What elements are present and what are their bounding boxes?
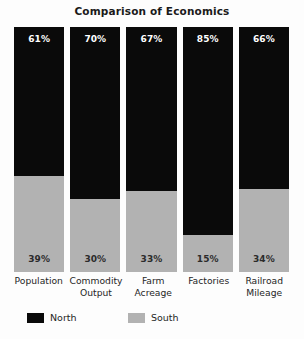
bar-value-label-south: 34% [253, 255, 275, 264]
bar-segment-south: 39% [14, 176, 64, 272]
bar-column-commodity-output: 70% 30% [70, 27, 120, 272]
legend-entry-south: South [128, 313, 179, 323]
economics-comparison-chart: Comparison of Economics 61% 39% 70% 30% … [0, 0, 304, 339]
bar-value-label-south: 39% [28, 255, 50, 264]
bar-segment-north: 61% [14, 27, 64, 176]
bar-column-population: 61% 39% [14, 27, 64, 272]
bar-segment-south: 34% [239, 189, 289, 272]
chart-legend: North South [0, 313, 304, 333]
bar-segment-north: 66% [239, 27, 289, 189]
bar-value-label-north: 66% [253, 35, 275, 44]
bar-column-factories: 85% 15% [183, 27, 233, 272]
x-tick-label: Railroad Mileage [239, 275, 289, 298]
bar-segment-north: 70% [70, 27, 120, 199]
bar-segment-north: 67% [126, 27, 176, 191]
chart-title: Comparison of Economics [0, 5, 304, 17]
bar-value-label-north: 70% [84, 35, 106, 44]
bar-value-label-south: 15% [197, 255, 219, 264]
bar-column-railroad-mileage: 66% 34% [239, 27, 289, 272]
bar-segment-south: 33% [126, 191, 176, 272]
x-tick-label: Commodity Output [70, 275, 123, 298]
bar-value-label-north: 61% [28, 35, 50, 44]
x-axis-labels: Population Commodity Output Farm Acreage… [14, 275, 289, 298]
bar-value-label-north: 67% [141, 35, 163, 44]
legend-label-south: South [151, 313, 179, 323]
bar-value-label-north: 85% [197, 35, 219, 44]
legend-swatch-icon-north [27, 313, 44, 323]
bar-value-label-south: 33% [141, 255, 163, 264]
x-tick-label: Population [14, 275, 64, 298]
bar-segment-south: 15% [183, 235, 233, 272]
legend-swatch-icon-south [128, 313, 145, 323]
x-tick-label: Farm Acreage [128, 275, 178, 298]
plot-area: 61% 39% 70% 30% 67% 33% 85% [14, 27, 289, 272]
bar-segment-north: 85% [183, 27, 233, 235]
legend-entry-north: North [27, 313, 77, 323]
bar-column-farm-acreage: 67% 33% [126, 27, 176, 272]
x-tick-label: Factories [184, 275, 234, 298]
bar-segment-south: 30% [70, 199, 120, 273]
bar-value-label-south: 30% [84, 255, 106, 264]
legend-label-north: North [50, 313, 77, 323]
